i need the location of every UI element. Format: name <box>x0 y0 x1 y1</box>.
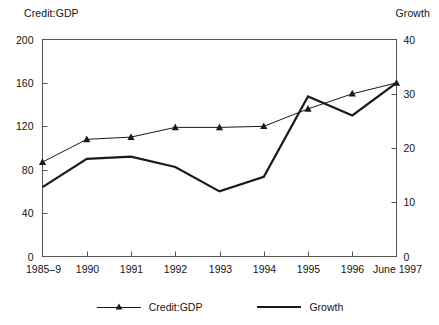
right-axis-tick-label: 10 <box>404 197 416 208</box>
legend-item-credit-gdp: Credit:GDP <box>96 301 203 313</box>
right-axis-tick-label: 40 <box>404 35 416 46</box>
left-axis-tick-label: 0 <box>0 252 34 263</box>
left-axis-tick-label: 200 <box>0 35 34 46</box>
left-axis-tick-label: 80 <box>0 165 34 176</box>
x-axis-ticks <box>88 252 353 257</box>
left-axis-tick-label: 120 <box>0 121 34 132</box>
plot-area <box>0 0 439 325</box>
legend-item-growth: Growth <box>256 301 343 313</box>
series-layer <box>39 79 400 191</box>
chart-container: Credit:GDP Growth 04080120160200 0102030… <box>0 0 439 325</box>
chart-legend: Credit:GDP Growth <box>0 296 439 318</box>
right-axis-tick-label: 20 <box>404 143 416 154</box>
legend-label-credit-gdp: Credit:GDP <box>149 301 203 313</box>
left-axis-tick-label: 40 <box>0 208 34 219</box>
axis-frame <box>42 39 397 257</box>
legend-label-growth: Growth <box>309 301 343 313</box>
right-axis-tick-label: 30 <box>404 89 416 100</box>
triangle-line-marker-icon <box>96 301 142 313</box>
x-axis-tick-label: June 1997 <box>362 264 434 275</box>
thick-line-marker-icon <box>256 301 302 313</box>
right-axis-ticks <box>392 95 397 203</box>
right-axis-tick-label: 0 <box>404 252 410 263</box>
left-axis-tick-label: 160 <box>0 78 34 89</box>
left-axis-ticks <box>43 84 48 214</box>
